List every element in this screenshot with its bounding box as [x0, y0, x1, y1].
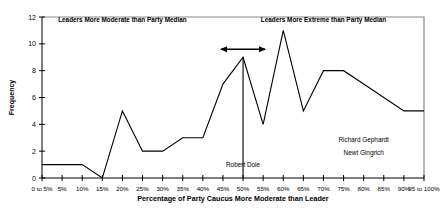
y-axis-tick-label: 0	[32, 175, 36, 182]
x-axis-tick-label: 70%	[317, 185, 330, 192]
y-axis-tick-label: 4	[32, 121, 36, 128]
chart-figure: 0246810120 to 5%5%10%15%20%25%30%35%40%4…	[0, 0, 440, 210]
x-axis-tick-label: 45%	[217, 185, 230, 192]
y-axis-tick-label: 8	[32, 67, 36, 74]
x-axis-tick-label: 20%	[116, 185, 129, 192]
y-axis-tick-label: 10	[28, 40, 36, 47]
x-axis-tick-label: 40%	[197, 185, 210, 192]
x-axis-tick-label: 65%	[297, 185, 310, 192]
annotation-left-header: Leaders More Moderate than Party Median	[58, 16, 187, 24]
x-axis-tick-label: 0 to 5%	[32, 185, 53, 192]
annotation-richard-gephardt: Richard Gephardt	[338, 136, 389, 144]
x-axis-tick-label: 75%	[337, 185, 350, 192]
x-axis-tick-label: 85%	[378, 185, 391, 192]
x-axis-tick-label: 95 to 100%	[408, 185, 440, 192]
annotation-newt-gingrich: Newt Gingrich	[344, 149, 385, 157]
x-axis-tick-label: 60%	[277, 185, 290, 192]
y-axis-title: Frequency	[8, 80, 16, 116]
x-axis-tick-label: 35%	[177, 185, 190, 192]
peak-spread-arrow-head-left	[220, 46, 227, 52]
x-axis-tick-label: 25%	[136, 185, 149, 192]
x-axis-tick-label: 55%	[257, 185, 270, 192]
annotation-robert-dole: Robert Dole	[226, 161, 261, 168]
x-axis-title: Percentage of Party Caucus More Moderate…	[137, 194, 329, 203]
x-axis-tick-label: 5%	[58, 185, 67, 192]
x-axis-tick-label: 80%	[357, 185, 370, 192]
y-axis-tick-label: 2	[32, 148, 36, 155]
peak-spread-arrow-head-right	[259, 46, 266, 52]
y-axis-tick-label: 12	[28, 14, 36, 21]
x-axis-tick-label: 50%	[237, 185, 250, 192]
x-axis-tick-label: 15%	[96, 185, 109, 192]
x-axis-tick-label: 30%	[156, 185, 169, 192]
annotation-right-header: Leaders More Extreme than Party Median	[261, 16, 386, 24]
x-axis-tick-label: 10%	[76, 185, 89, 192]
frequency-line-chart: 0246810120 to 5%5%10%15%20%25%30%35%40%4…	[0, 0, 440, 210]
y-axis-tick-label: 6	[32, 94, 36, 101]
